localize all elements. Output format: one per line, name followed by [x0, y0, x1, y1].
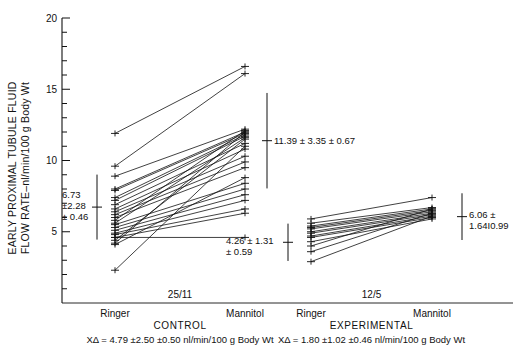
control-ringer-stat-text: ± 0.46 [62, 211, 88, 222]
experimental-stat-text: 1.64I0.99 [469, 220, 509, 231]
control-n-label: 25/11 [168, 289, 193, 300]
y-axis-title-line2: FLOW RATE–nl/min/100 g Body Wt [19, 82, 31, 254]
control-ringer-stat-text: ±2.28 [62, 200, 86, 211]
y-axis-title-line1: EARLY PROXIMAL TUBULE FLUID [6, 81, 18, 254]
pair-line [311, 209, 432, 246]
experimental-n-label: 12/5 [362, 289, 382, 300]
y-tick-label: 20 [46, 13, 58, 24]
experimental-panel-title: EXPERIMENTAL [330, 320, 414, 331]
y-tick-label: 10 [46, 155, 58, 166]
control-ringer-stat-text: 6.73 [62, 189, 81, 200]
pair-line [311, 216, 432, 262]
y-tick-label: 15 [46, 84, 58, 95]
y-tick-label: 5 [51, 226, 57, 237]
control-delta-footer: XΔ = 4.79 ±2.50 ±0.50 nl/min/100 g Body … [86, 334, 273, 345]
pair-line [115, 133, 245, 190]
chart-canvas: 5101520EARLY PROXIMAL TUBULE FLUIDFLOW R… [0, 0, 517, 350]
control-panel-title: CONTROL [153, 320, 206, 331]
experimental-mannitol-label: Mannitol [413, 308, 451, 319]
control-mannitol-label: Mannitol [226, 308, 264, 319]
control-low-stat-text: 4.26 ± 1.31 [226, 235, 273, 246]
experimental-stat-text: 6.06 ± [469, 209, 495, 220]
experimental-delta-footer: XΔ = 1.80 ±1.02 ±0.46 nl/min/100 g Body … [278, 334, 465, 345]
figure-root: 5101520EARLY PROXIMAL TUBULE FLUIDFLOW R… [0, 0, 517, 350]
control-low-stat-text: ± 0.59 [226, 246, 252, 257]
control-ringer-label: Ringer [100, 308, 130, 319]
pair-line [115, 66, 245, 133]
pair-line [115, 136, 245, 200]
control-mannitol-stat-text: 11.39 ± 3.35 ± 0.67 [274, 135, 355, 146]
experimental-ringer-label: Ringer [296, 308, 326, 319]
